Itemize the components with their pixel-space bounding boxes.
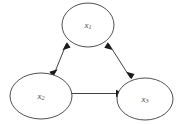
edge-x1-x3-arrowhead-at-x3 [126,72,134,80]
node-x1-label-subscript: 1 [88,24,91,31]
node-x2-label-subscript: 2 [41,95,44,102]
node-x1[interactable]: x1 [62,3,114,47]
node-x3[interactable]: x3 [117,78,173,120]
node-x3-label-subscript: 3 [144,98,148,105]
edge-x1-x2 [49,42,70,77]
edge-x1-x3-arrowhead-at-x1 [104,42,112,50]
diagram-canvas: x1 x2 x3 [0,0,176,124]
node-x2[interactable]: x2 [10,73,72,119]
graph-svg: x1 x2 x3 [0,0,176,124]
edge-x1-x3 [104,42,134,79]
edge-x1-x2-arrowhead-at-x1 [62,42,70,50]
